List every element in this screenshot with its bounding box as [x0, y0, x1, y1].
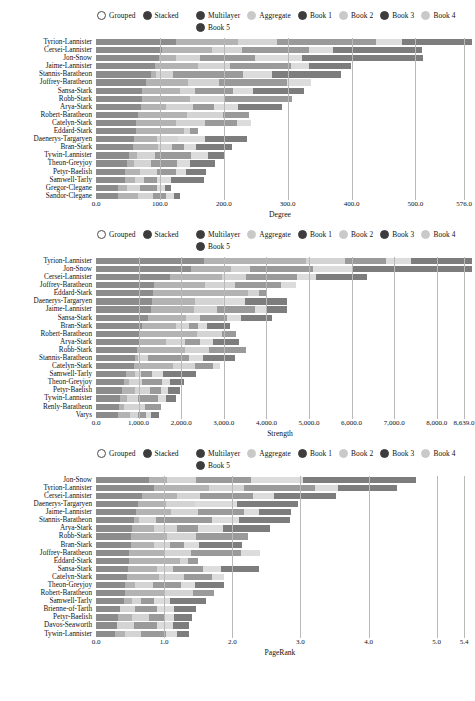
legend-swatch-icon[interactable]: [247, 449, 256, 458]
stacked-bar[interactable]: [96, 533, 248, 539]
stacked-bar[interactable]: [96, 509, 291, 515]
stacked-bar[interactable]: [96, 47, 422, 53]
legend-swatch-icon[interactable]: [339, 230, 348, 239]
legend-series-book-1[interactable]: Book 1: [298, 11, 332, 20]
stacked-bar[interactable]: [96, 144, 232, 150]
legend-swatch-icon[interactable]: [196, 23, 205, 32]
stacked-bar[interactable]: [96, 404, 161, 410]
stacked-bar[interactable]: [96, 485, 397, 491]
legend-swatch-icon[interactable]: [380, 230, 389, 239]
legend-series-book-1[interactable]: Book 1: [298, 449, 332, 458]
legend-series-book-3[interactable]: Book 3: [380, 449, 414, 458]
legend-series-book-1[interactable]: Book 1: [298, 230, 332, 239]
stacked-bar[interactable]: [96, 193, 180, 199]
stacked-bar[interactable]: [96, 363, 220, 369]
stacked-bar[interactable]: [96, 152, 225, 158]
stacked-bar[interactable]: [96, 298, 287, 304]
legend-series-book-4[interactable]: Book 4: [421, 11, 455, 20]
legend-series-group[interactable]: MultilayerAggregateBook 1Book 2Book 3Boo…: [196, 230, 466, 254]
stacked-bar[interactable]: [96, 631, 189, 637]
stacked-bar[interactable]: [96, 128, 198, 134]
legend-swatch-icon[interactable]: [421, 449, 430, 458]
stacked-bar[interactable]: [96, 104, 282, 110]
legend-swatch-icon[interactable]: [380, 449, 389, 458]
legend-series-group[interactable]: MultilayerAggregateBook 1Book 2Book 3Boo…: [196, 11, 466, 35]
stacked-bar[interactable]: [96, 266, 472, 272]
stacked-bar[interactable]: [96, 120, 251, 126]
stacked-bar[interactable]: [96, 550, 260, 556]
radio-selected-icon[interactable]: [143, 449, 152, 458]
legend-swatch-icon[interactable]: [380, 11, 389, 20]
legend-mode-stacked[interactable]: Stacked: [143, 449, 179, 458]
stacked-bar[interactable]: [96, 371, 196, 377]
stacked-bar[interactable]: [96, 169, 206, 175]
legend-series-book-2[interactable]: Book 2: [339, 449, 373, 458]
stacked-bar[interactable]: [96, 290, 267, 296]
stacked-bar[interactable]: [96, 355, 235, 361]
legend-swatch-icon[interactable]: [247, 230, 256, 239]
legend-swatch-icon[interactable]: [196, 461, 205, 470]
legend-swatch-icon[interactable]: [196, 11, 205, 20]
stacked-bar[interactable]: [96, 477, 416, 483]
stacked-bar[interactable]: [96, 63, 351, 69]
stacked-bar[interactable]: [96, 177, 204, 183]
radio-selected-icon[interactable]: [143, 230, 152, 239]
radio-selected-icon[interactable]: [143, 11, 152, 20]
stacked-bar[interactable]: [96, 323, 230, 329]
stacked-bar[interactable]: [96, 185, 171, 191]
stacked-bar[interactable]: [96, 55, 423, 61]
legend-swatch-icon[interactable]: [196, 242, 205, 251]
legend-swatch-icon[interactable]: [339, 449, 348, 458]
legend-series-aggregate[interactable]: Aggregate: [247, 230, 291, 239]
stacked-bar[interactable]: [96, 614, 192, 620]
legend-series-aggregate[interactable]: Aggregate: [247, 11, 291, 20]
legend-series-multilayer[interactable]: Multilayer: [196, 449, 240, 458]
stacked-bar[interactable]: [96, 112, 249, 118]
radio-unselected-icon[interactable]: [97, 230, 106, 239]
legend-swatch-icon[interactable]: [421, 230, 430, 239]
legend-mode-stacked[interactable]: Stacked: [143, 11, 179, 20]
legend-series-book-2[interactable]: Book 2: [339, 11, 373, 20]
legend-series-book-4[interactable]: Book 4: [421, 449, 455, 458]
legend-swatch-icon[interactable]: [298, 449, 307, 458]
legend-swatch-icon[interactable]: [247, 11, 256, 20]
stacked-bar[interactable]: [96, 598, 206, 604]
stacked-bar[interactable]: [96, 96, 292, 102]
stacked-bar[interactable]: [96, 274, 367, 280]
stacked-bar[interactable]: [96, 525, 270, 531]
stacked-bar[interactable]: [96, 387, 180, 393]
stacked-bar[interactable]: [96, 622, 189, 628]
legend-series-group[interactable]: MultilayerAggregateBook 1Book 2Book 3Boo…: [196, 449, 466, 473]
stacked-bar[interactable]: [96, 160, 215, 166]
legend-swatch-icon[interactable]: [298, 230, 307, 239]
legend-swatch-icon[interactable]: [421, 11, 430, 20]
stacked-bar[interactable]: [96, 379, 184, 385]
legend-series-multilayer[interactable]: Multilayer: [196, 11, 240, 20]
legend-series-book-2[interactable]: Book 2: [339, 230, 373, 239]
legend-swatch-icon[interactable]: [298, 11, 307, 20]
stacked-bar[interactable]: [96, 582, 224, 588]
legend-series-book-3[interactable]: Book 3: [380, 11, 414, 20]
legend-series-book-4[interactable]: Book 4: [421, 230, 455, 239]
legend-swatch-icon[interactable]: [196, 230, 205, 239]
stacked-bar[interactable]: [96, 306, 287, 312]
radio-unselected-icon[interactable]: [97, 449, 106, 458]
stacked-bar[interactable]: [96, 558, 198, 564]
stacked-bar[interactable]: [96, 566, 259, 572]
stacked-bar[interactable]: [96, 574, 224, 580]
stacked-bar[interactable]: [96, 258, 472, 264]
stacked-bar[interactable]: [96, 136, 247, 142]
stacked-bar[interactable]: [96, 501, 298, 507]
legend-mode-grouped[interactable]: Grouped: [97, 449, 136, 458]
stacked-bar[interactable]: [96, 71, 341, 77]
legend-series-book-5[interactable]: Book 5: [196, 242, 230, 251]
stacked-bar[interactable]: [96, 315, 272, 321]
legend-series-aggregate[interactable]: Aggregate: [247, 449, 291, 458]
radio-unselected-icon[interactable]: [97, 11, 106, 20]
stacked-bar[interactable]: [96, 79, 311, 85]
stacked-bar[interactable]: [96, 347, 246, 353]
stacked-bar[interactable]: [96, 395, 176, 401]
stacked-bar[interactable]: [96, 339, 239, 345]
legend-swatch-icon[interactable]: [339, 11, 348, 20]
stacked-bar[interactable]: [96, 606, 196, 612]
